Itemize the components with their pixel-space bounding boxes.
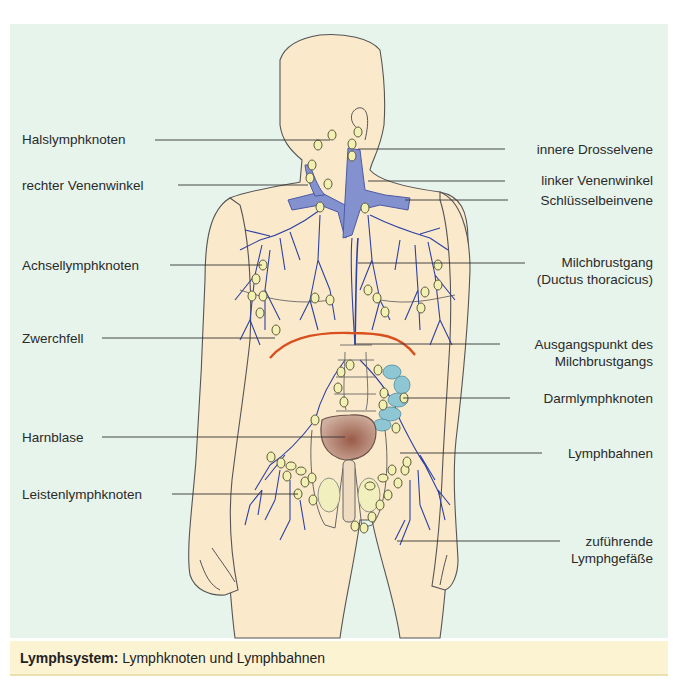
label-achsellymphknoten: Achsellymphknoten: [22, 257, 139, 274]
label-milchbrustgang-line1: Milchbrustgang: [537, 254, 653, 271]
body-silhouette: [189, 35, 470, 638]
label-ausgangspunkt-line1: Ausgangspunkt des: [534, 336, 653, 353]
label-zwerchfell: Zwerchfell: [22, 330, 84, 347]
label-ausgangspunkt: Ausgangspunkt des Milchbrustgangs: [534, 336, 653, 370]
label-zufuehrende-line2: Lymphgefäße: [571, 550, 653, 567]
label-ausgangspunkt-line2: Milchbrustgangs: [534, 353, 653, 370]
label-leistenlymphknoten: Leistenlymphknoten: [22, 486, 142, 503]
label-darmlymphknoten: Darmlymphknoten: [543, 390, 653, 407]
figure-caption: Lymphsystem: Lymphknoten und Lymphbahnen: [10, 641, 668, 676]
label-lymphbahnen: Lymphbahnen: [568, 445, 653, 462]
label-innere-drosselvene: innere Drosselvene: [537, 141, 653, 158]
label-harnblase: Harnblase: [22, 429, 84, 446]
label-milchbrustgang: Milchbrustgang (Ductus thoracicus): [537, 254, 653, 288]
caption-text: Lymphknoten und Lymphbahnen: [118, 650, 325, 666]
caption-title: Lymphsystem:: [20, 650, 118, 666]
label-milchbrustgang-line2: (Ductus thoracicus): [537, 271, 653, 288]
label-zufuehrende-line1: zuführende: [571, 533, 653, 550]
label-zufuehrende-lymphgefaesse: zuführende Lymphgefäße: [571, 533, 653, 567]
label-halslymphknoten: Halslymphknoten: [22, 131, 126, 148]
label-schluesselbeinvene: Schlüsselbeinvene: [540, 192, 653, 209]
label-rechter-venenwinkel: rechter Venenwinkel: [22, 177, 144, 194]
label-linker-venenwinkel: linker Venenwinkel: [541, 172, 653, 189]
